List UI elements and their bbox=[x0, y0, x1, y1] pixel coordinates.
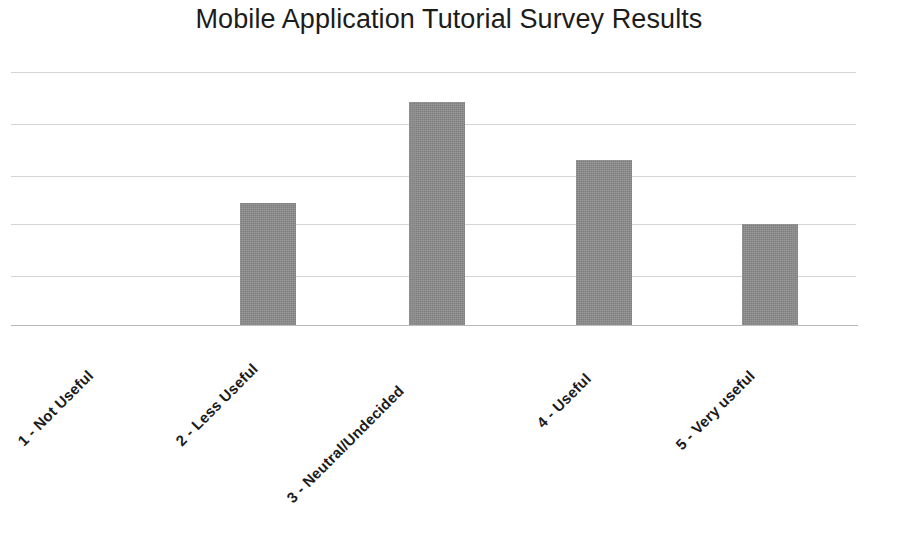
bar-category-4[interactable] bbox=[576, 160, 632, 325]
x-tick-label-1: 1 - Not Useful bbox=[14, 367, 96, 449]
bar-category-2[interactable] bbox=[240, 203, 296, 325]
chart-container: Mobile Application Tutorial Survey Resul… bbox=[0, 0, 898, 534]
x-tick-label-5: 5 - Very useful bbox=[672, 367, 758, 453]
x-tick-label-4: 4 - Useful bbox=[533, 370, 594, 431]
bar-category-3[interactable] bbox=[409, 102, 465, 325]
bars-layer bbox=[11, 66, 856, 328]
x-tick-label-2: 2 - Less Useful bbox=[172, 360, 261, 449]
plot-area bbox=[11, 66, 856, 328]
x-axis-tick-labels: 1 - Not Useful 2 - Less Useful 3 - Neutr… bbox=[0, 329, 898, 534]
bar-category-5[interactable] bbox=[742, 224, 798, 325]
chart-title: Mobile Application Tutorial Survey Resul… bbox=[0, 2, 898, 36]
x-tick-label-3: 3 - Neutral/Undecided bbox=[283, 382, 407, 506]
